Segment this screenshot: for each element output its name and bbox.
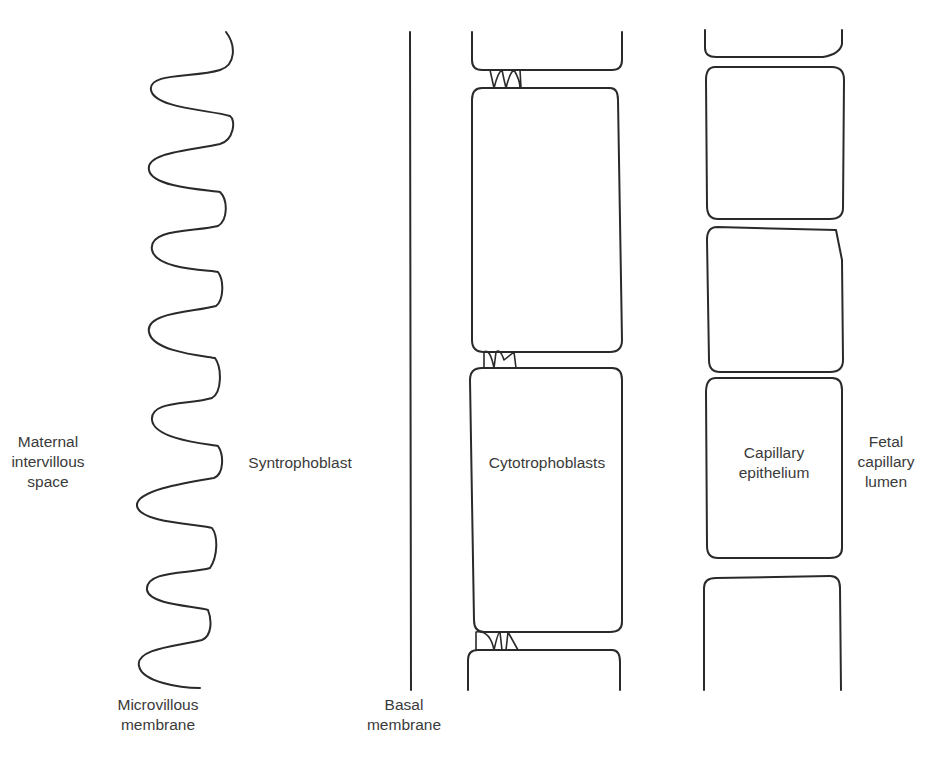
label-maternal-intervillous-space: Maternal intervillous space	[11, 432, 84, 492]
capillary-cell	[705, 30, 842, 57]
label-line: intervillous	[11, 452, 84, 472]
cytotrophoblast-cell	[472, 88, 622, 352]
label-line: Capillary	[739, 443, 810, 463]
label-line: epithelium	[739, 463, 810, 483]
label-fetal-capillary-lumen: Fetal capillary lumen	[858, 432, 915, 492]
label-line: Cytotrophoblasts	[489, 453, 605, 473]
label-microvillous-membrane: Microvillous membrane	[118, 695, 199, 735]
diagram-drawing	[0, 0, 931, 757]
label-line: Syntrophoblast	[248, 453, 351, 473]
cytotrophoblast-cell	[472, 32, 622, 70]
capillary-cell	[707, 227, 843, 372]
basal-membrane-line	[410, 32, 411, 690]
cytotrophoblast-cell	[470, 368, 622, 632]
label-syntrophoblast: Syntrophoblast	[248, 453, 351, 473]
label-line: space	[11, 472, 84, 492]
label-line: Basal	[367, 695, 441, 715]
label-cytotrophoblasts: Cytotrophoblasts	[489, 453, 605, 473]
label-capillary-epithelium: Capillary epithelium	[739, 443, 810, 483]
label-line: membrane	[118, 715, 199, 735]
label-line: Microvillous	[118, 695, 199, 715]
label-line: lumen	[858, 472, 915, 492]
cell-junction	[490, 70, 521, 88]
capillary-cell	[704, 576, 841, 690]
label-line: Maternal	[11, 432, 84, 452]
label-line: capillary	[858, 452, 915, 472]
placenta-diagram: Maternal intervillous space Syntrophobla…	[0, 0, 931, 757]
cell-junction	[476, 632, 518, 650]
label-line: membrane	[367, 715, 441, 735]
microvillous-membrane-wave	[137, 32, 233, 688]
capillary-cell	[706, 67, 844, 219]
cytotrophoblast-cells	[468, 32, 622, 690]
capillary-epithelial-cells	[704, 30, 844, 690]
cell-junction	[484, 351, 516, 368]
label-line: Fetal	[858, 432, 915, 452]
label-basal-membrane: Basal membrane	[367, 695, 441, 735]
cytotrophoblast-cell	[468, 650, 620, 690]
